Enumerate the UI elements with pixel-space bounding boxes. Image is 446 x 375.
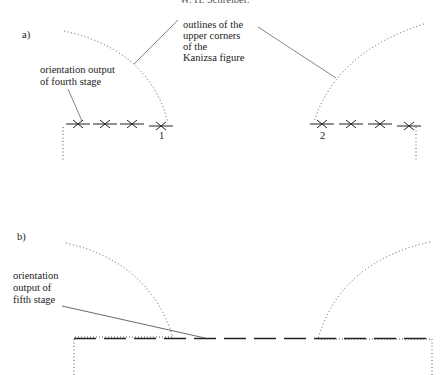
panel-a-graphics — [63, 20, 424, 160]
left-corner-arc — [64, 31, 168, 123]
orientation-markers-right — [310, 120, 421, 130]
leader-fifth-stage — [62, 306, 205, 338]
kanizsa-diagram — [0, 0, 446, 375]
right-corner-arc-b — [318, 242, 430, 339]
left-corner-arc-b — [66, 243, 173, 338]
leader-outline-right — [258, 27, 336, 78]
right-corner-arc — [314, 24, 424, 122]
leader-outline-left — [134, 20, 178, 64]
panel-b-graphics — [62, 242, 432, 375]
leader-fourth-stage — [68, 89, 82, 121]
orientation-markers-left — [66, 120, 173, 130]
